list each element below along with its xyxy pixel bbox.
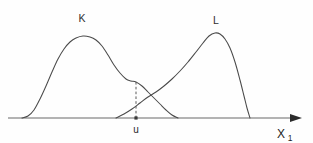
threshold-label: u — [133, 124, 139, 135]
x-axis-arrow-icon — [290, 114, 302, 122]
density-curve-k — [22, 36, 178, 118]
x-axis-label-subscript: 1 — [288, 133, 293, 143]
x-axis-label: X — [277, 127, 285, 141]
figure-container: K L u X 1 — [0, 0, 313, 143]
density-curve-l — [116, 33, 250, 118]
threshold-axis-marker — [134, 116, 137, 119]
curve-k-label: K — [78, 12, 85, 24]
curve-l-label: L — [213, 14, 219, 26]
density-curves-figure: K L u X 1 — [0, 0, 313, 143]
